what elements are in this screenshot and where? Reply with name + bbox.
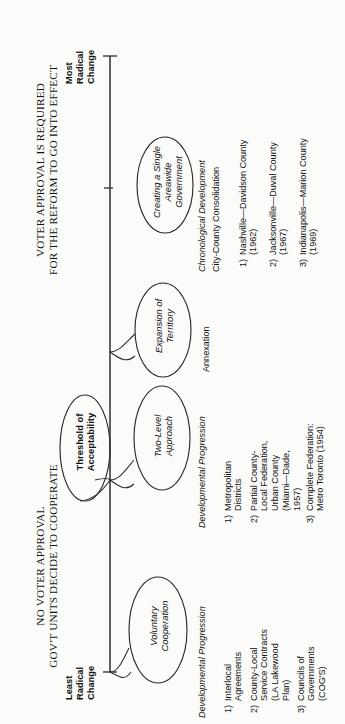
list-item: 2)Jacksonville—Duval County (1967)	[257, 97, 289, 272]
connector-twolevel-bottom	[110, 480, 134, 488]
list-header-chronological-development: Chronological Development	[197, 107, 208, 272]
connector-expansion-bottom	[110, 352, 135, 360]
title-voter-approval-required: VOTER APPROVAL IS REQUIRED	[34, 10, 47, 330]
list-item-number: 2)	[249, 701, 260, 713]
connector-expansion-top	[110, 334, 135, 352]
list-header-voluntary: Developmental Progression	[197, 568, 208, 718]
label-two-level-approach: Two-Level Approach	[152, 390, 174, 482]
list-item-number: 1)	[223, 511, 234, 523]
title-no-voter-approval-sub: GOV'T UNITS DECIDE TO COOPERATE	[47, 416, 60, 716]
list-item-number: 2)	[249, 511, 260, 523]
label-expansion-of-territory: Expansion of Territory	[153, 280, 175, 372]
title-no-voter-approval: NO VOTER APPROVAL	[34, 416, 47, 716]
connector-voluntary-bottom	[110, 672, 131, 677]
list-item-number: 2)	[268, 255, 279, 267]
list-item-text: Indianapolis—Marion County (1969)	[298, 138, 319, 255]
list-item: 3)Indianapolis—Marion County (1969)	[287, 92, 319, 272]
list-subheader-city-county-consolidation: City-County Consolidation	[211, 107, 222, 272]
list-item: 2)Partial County- Local Federation, Urba…	[238, 368, 302, 528]
list-item-text: Councils of Governments (COG'S)	[296, 646, 328, 701]
list-item-number: 1)	[238, 255, 249, 267]
label-single-areawide-government: Creating a Single Areawide Government	[151, 132, 184, 232]
connector-twolevel-top	[110, 460, 134, 480]
label-threshold-of-acceptability: Threshold of Acceptability	[74, 392, 96, 492]
list-item: 1)Nashville—Davidson County (1962)	[227, 97, 259, 272]
list-item: 3)Complete Federation: Metro Toronto (19…	[294, 353, 326, 528]
list-item-text: Jacksonville—Duval County (1967)	[268, 142, 289, 255]
list-item-number: 3)	[296, 701, 307, 713]
list-item-number: 3)	[298, 255, 309, 267]
title-voter-approval-required-sub: FOR THE REFORM TO GO INTO EFFECT	[47, 10, 60, 330]
axis-label-least-radical-change: Least Radical Change	[64, 620, 97, 700]
list-item-text: Nashville—Davidson County (1962)	[238, 140, 259, 255]
list-item: 2)County-Local Service Contracts (LA Lak…	[238, 568, 292, 718]
label-voluntary-cooperation: Voluntary Cooperation	[148, 580, 170, 672]
connector-threshold	[95, 479, 110, 481]
list-header-two-level: Developmental Progression	[197, 368, 208, 528]
list-item-number: 3)	[305, 511, 316, 523]
list-item-text: Complete Federation: Metro Toronto (1954…	[305, 423, 326, 510]
list-item-number: 1)	[223, 701, 234, 713]
connector-voluntary-top	[110, 648, 129, 672]
axis-label-most-radical-change: Most Radical Change	[64, 4, 97, 84]
list-item: 3)Councils of Governments (COG'S)	[285, 568, 328, 718]
